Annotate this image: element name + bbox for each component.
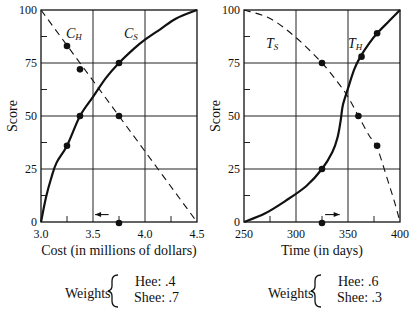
y-tick-label: 50 [25,109,37,123]
arrow-left-icon [95,212,101,217]
x-tick-label: 4.0 [138,227,153,241]
x-tick-label: 4.5 [190,227,205,241]
x-tick-label: 400 [391,227,409,241]
y-tick-label: 0 [31,215,37,229]
data-point-marker [355,113,362,120]
time-score-chart: 2503003504000255075100Time (in days)Scor… [208,3,409,307]
data-point-marker [319,60,326,67]
weight-shee: Shee: .3 [337,290,382,305]
y-tick-label: 100 [222,3,240,17]
weights-label: Weights [268,286,314,301]
x-tick-label: 3.0 [34,227,49,241]
y-tick-label: 100 [19,3,37,17]
curly-brace-icon [108,275,118,307]
y-tick-label: 75 [228,56,240,70]
data-point-marker [374,30,381,37]
data-point-marker [319,166,326,173]
x-tick-label: 350 [339,227,357,241]
x-axis-label: Time (in days) [281,243,363,259]
arrow-right-icon [334,212,340,217]
optimum-dot-marker [319,220,326,227]
cost-score-chart: 3.03.54.04.50255075100Cost (in millions … [5,3,205,307]
data-point-marker [64,43,71,50]
y-tick-label: 0 [234,215,240,229]
weight-hee: Hee: .6 [338,274,378,289]
x-tick-label: 250 [235,227,253,241]
data-point-marker [77,113,84,120]
series-label: CS [124,26,138,42]
x-axis-label: Cost (in millions of dollars) [41,243,197,259]
y-axis-label: Score [208,100,223,132]
series-label: TS [266,36,279,52]
weight-shee: Shee: .7 [134,290,179,305]
series-label: CH [66,26,82,42]
y-axis-label: Score [5,100,20,132]
y-tick-label: 25 [228,162,240,176]
weight-hee: Hee: .4 [135,274,175,289]
data-point-marker [116,60,123,67]
weights-label: Weights [65,286,111,301]
data-point-marker [116,113,123,120]
curly-brace-icon [311,275,321,307]
data-point-marker [64,142,71,149]
x-tick-label: 300 [287,227,305,241]
chart-canvas: 3.03.54.04.50255075100Cost (in millions … [0,0,415,322]
x-tick-label: 3.5 [86,227,101,241]
data-point-marker [358,53,365,60]
series-label: TH [348,36,363,52]
data-point-marker [374,142,381,149]
optimum-dot-marker [116,220,123,227]
data-point-marker [77,66,84,73]
y-tick-label: 25 [25,162,37,176]
y-tick-label: 50 [228,109,240,123]
y-tick-label: 75 [25,56,37,70]
